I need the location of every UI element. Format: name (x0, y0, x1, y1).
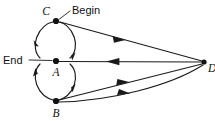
node-label-a: A (51, 66, 60, 78)
node-label-d: D (207, 62, 215, 74)
arrowhead-d-to-a (106, 58, 119, 65)
edge-d-to-a (59, 62, 201, 63)
annotation-end: End (3, 54, 23, 66)
node-c-dot (53, 18, 59, 24)
node-a-dot (53, 58, 59, 64)
node-label-b: B (52, 107, 59, 119)
annotation-begin: Begin (72, 4, 100, 16)
edge-b-to-d-upper (59, 64, 202, 100)
edge-b-to-d-lower (59, 65, 203, 102)
leader-end (29, 60, 52, 61)
leader-begin (60, 11, 71, 19)
edge-c-to-d (60, 22, 202, 61)
edge-c-to-a-right-arc (56, 21, 75, 58)
arrowhead-b-to-d-lower (117, 89, 130, 95)
edge-c-to-a-left-arc (35, 21, 56, 58)
arrowhead-c-to-d (113, 36, 126, 42)
node-label-c: C (42, 5, 50, 17)
graph-canvas: C A B D Begin End (0, 0, 215, 121)
node-d-dot (201, 59, 206, 64)
graph-diagram: C A B D Begin End (0, 0, 215, 121)
node-b-dot (53, 98, 59, 104)
